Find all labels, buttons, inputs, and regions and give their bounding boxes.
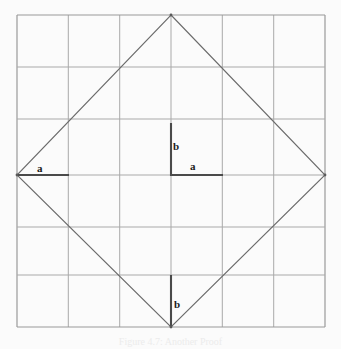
label-a-left: a (37, 163, 43, 174)
label-b-center: b (173, 141, 179, 152)
figure-stage: a b a b Figure 4.7: Another Proof (0, 0, 341, 349)
vertex-marker-bottom (170, 326, 173, 329)
geometry-diagram-svg (0, 0, 341, 349)
label-a-center: a (190, 161, 196, 172)
label-b-bottom: b (174, 299, 180, 310)
vertex-marker-right (324, 174, 327, 177)
vertex-marker-left (16, 174, 19, 177)
vertex-marker-top (170, 14, 173, 17)
figure-caption: Figure 4.7: Another Proof (0, 336, 341, 349)
